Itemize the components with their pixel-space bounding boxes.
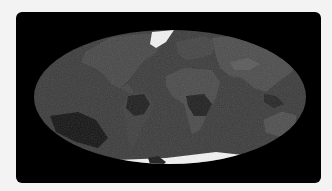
map-card: Grayscale global map in Mollweide projec…: [16, 12, 321, 183]
world-map: [16, 12, 321, 183]
